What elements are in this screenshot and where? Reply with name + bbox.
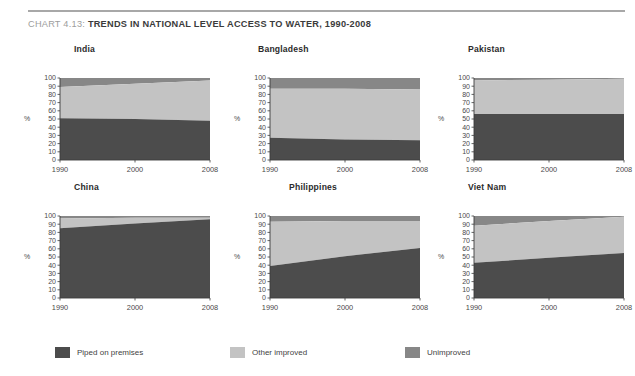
y-axis-tick-label: 20 bbox=[448, 278, 470, 285]
y-axis-tick-label: 10 bbox=[448, 148, 470, 155]
chart-panel-philippines: Philippines1009080706050403020100%199020… bbox=[234, 182, 439, 312]
y-axis-tick-label: 90 bbox=[34, 221, 56, 228]
x-axis-tick-label: 1990 bbox=[457, 165, 491, 174]
y-axis-tick-label: 40 bbox=[448, 262, 470, 269]
y-axis-tick-label: 30 bbox=[34, 270, 56, 277]
y-axis-tick-label: 80 bbox=[34, 91, 56, 98]
y-axis-tick-label: 0 bbox=[448, 294, 470, 301]
y-axis-tick-label: 40 bbox=[244, 124, 266, 131]
chart-panel-viet-nam: Viet Nam1009080706050403020100%199020002… bbox=[438, 182, 635, 312]
chart-title-text: TRENDS IN NATIONAL LEVEL ACCESS TO WATER… bbox=[88, 19, 371, 29]
y-axis-tick-label: 80 bbox=[244, 229, 266, 236]
plot-area: 1009080706050403020100%199020002008 bbox=[234, 198, 439, 310]
y-axis-tick-label: 20 bbox=[34, 278, 56, 285]
y-axis-tick-label: 30 bbox=[448, 132, 470, 139]
y-axis-label: % bbox=[234, 253, 240, 260]
x-axis-tick-label: 2008 bbox=[193, 165, 227, 174]
y-axis-tick-label: 70 bbox=[34, 237, 56, 244]
y-axis-tick-label: 0 bbox=[244, 294, 266, 301]
y-axis-tick-label: 70 bbox=[244, 237, 266, 244]
x-axis-tick-label: 1990 bbox=[253, 303, 287, 312]
x-axis-tick-label: 2008 bbox=[607, 303, 635, 312]
panel-title: Philippines bbox=[289, 182, 337, 192]
legend-swatch-icon bbox=[405, 347, 420, 358]
y-axis-tick-label: 80 bbox=[34, 229, 56, 236]
y-axis-tick-label: 90 bbox=[244, 83, 266, 90]
plot-area: 1009080706050403020100%199020002008 bbox=[438, 60, 635, 172]
x-axis-tick-label: 2000 bbox=[532, 165, 566, 174]
y-axis-tick-label: 100 bbox=[448, 74, 470, 81]
y-axis-tick-label: 60 bbox=[244, 107, 266, 114]
y-axis-label: % bbox=[234, 115, 240, 122]
y-axis-tick-label: 30 bbox=[244, 132, 266, 139]
y-axis-tick-label: 90 bbox=[34, 83, 56, 90]
y-axis-label: % bbox=[24, 253, 30, 260]
y-axis-tick-label: 30 bbox=[34, 132, 56, 139]
y-axis-tick-label: 10 bbox=[244, 286, 266, 293]
plot-area: 1009080706050403020100%199020002008 bbox=[24, 198, 229, 310]
plot-area: 1009080706050403020100%199020002008 bbox=[234, 60, 439, 172]
area-piped-on-premises bbox=[60, 219, 210, 298]
chart-legend: Piped on premisesOther improvedUnimprove… bbox=[55, 345, 615, 363]
y-axis-tick-label: 60 bbox=[448, 107, 470, 114]
y-axis-tick-label: 80 bbox=[448, 229, 470, 236]
y-axis-tick-label: 100 bbox=[34, 74, 56, 81]
legend-item: Other improved bbox=[230, 345, 307, 359]
y-axis-tick-label: 50 bbox=[448, 253, 470, 260]
y-axis-tick-label: 90 bbox=[448, 83, 470, 90]
chart-page: CHART 4.13: TRENDS IN NATIONAL LEVEL ACC… bbox=[0, 0, 635, 376]
y-axis-tick-label: 100 bbox=[244, 74, 266, 81]
x-axis-tick-label: 2000 bbox=[328, 303, 362, 312]
y-axis-tick-label: 100 bbox=[448, 212, 470, 219]
y-axis-tick-label: 50 bbox=[34, 115, 56, 122]
y-axis-tick-label: 40 bbox=[34, 262, 56, 269]
y-axis-label: % bbox=[438, 115, 444, 122]
y-axis-tick-label: 50 bbox=[244, 115, 266, 122]
legend-label: Other improved bbox=[252, 348, 307, 357]
x-axis-tick-label: 1990 bbox=[253, 165, 287, 174]
panel-title: India bbox=[74, 44, 95, 54]
y-axis-tick-label: 50 bbox=[34, 253, 56, 260]
page-title: CHART 4.13: TRENDS IN NATIONAL LEVEL ACC… bbox=[28, 19, 628, 29]
chart-panel-pakistan: Pakistan1009080706050403020100%199020002… bbox=[438, 44, 635, 174]
y-axis-tick-label: 90 bbox=[244, 221, 266, 228]
legend-item: Piped on premises bbox=[55, 345, 143, 359]
legend-label: Piped on premises bbox=[77, 348, 143, 357]
legend-label: Unimproved bbox=[427, 348, 470, 357]
chart-number: CHART 4.13: bbox=[28, 19, 85, 29]
area-unimproved bbox=[270, 216, 420, 222]
y-axis-tick-label: 0 bbox=[34, 156, 56, 163]
y-axis-tick-label: 20 bbox=[244, 140, 266, 147]
y-axis-tick-label: 70 bbox=[448, 99, 470, 106]
x-axis-tick-label: 2008 bbox=[193, 303, 227, 312]
y-axis-tick-label: 60 bbox=[448, 245, 470, 252]
y-axis-label: % bbox=[24, 115, 30, 122]
x-axis-tick-label: 2008 bbox=[403, 303, 437, 312]
plot-area: 1009080706050403020100%199020002008 bbox=[438, 198, 635, 310]
x-axis-tick-label: 2000 bbox=[328, 165, 362, 174]
area-piped-on-premises bbox=[270, 138, 420, 160]
chart-panel-india: India1009080706050403020100%199020002008 bbox=[24, 44, 229, 174]
y-axis-tick-label: 90 bbox=[448, 221, 470, 228]
y-axis-tick-label: 20 bbox=[244, 278, 266, 285]
y-axis-tick-label: 0 bbox=[244, 156, 266, 163]
area-unimproved bbox=[270, 78, 420, 89]
y-axis-tick-label: 80 bbox=[244, 91, 266, 98]
panel-title: Bangladesh bbox=[258, 44, 309, 54]
y-axis-tick-label: 20 bbox=[448, 140, 470, 147]
y-axis-tick-label: 80 bbox=[448, 91, 470, 98]
y-axis-tick-label: 60 bbox=[244, 245, 266, 252]
y-axis-tick-label: 50 bbox=[448, 115, 470, 122]
y-axis-tick-label: 100 bbox=[244, 212, 266, 219]
area-other-improved bbox=[60, 80, 210, 120]
x-axis-tick-label: 2000 bbox=[118, 165, 152, 174]
header-divider bbox=[28, 10, 625, 12]
y-axis-tick-label: 10 bbox=[34, 148, 56, 155]
y-axis-label: % bbox=[438, 253, 444, 260]
y-axis-tick-label: 30 bbox=[448, 270, 470, 277]
y-axis-tick-label: 70 bbox=[244, 99, 266, 106]
x-axis-tick-label: 2008 bbox=[607, 165, 635, 174]
y-axis-tick-label: 40 bbox=[448, 124, 470, 131]
x-axis-tick-label: 2000 bbox=[532, 303, 566, 312]
y-axis-tick-label: 30 bbox=[244, 270, 266, 277]
